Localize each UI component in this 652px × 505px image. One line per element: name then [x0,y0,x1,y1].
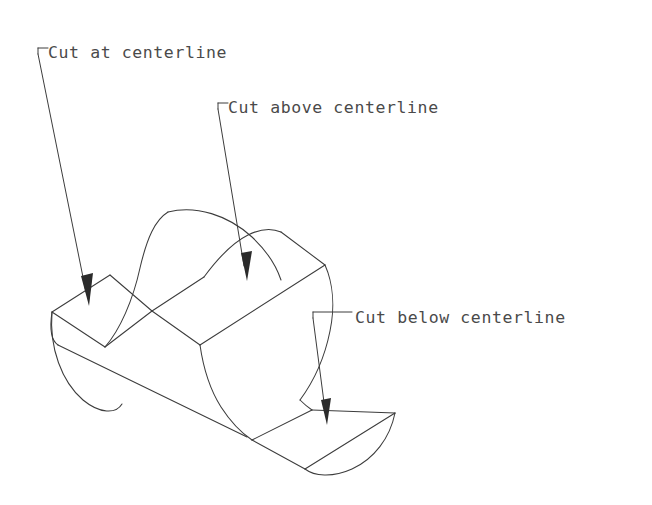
left-end-arc-close [110,275,122,404]
middle-flat-back-edge [281,232,325,265]
cylinder-front-bottom-element [58,345,247,437]
right-flat-junction-arc [300,400,312,410]
middle-front-drop-arc [200,345,252,440]
middle-flat-right-edge [200,265,325,345]
right-flat-left-edge [252,410,312,440]
arrowhead-2 [241,251,252,281]
cylinder-upper-silhouette-arc [168,210,281,280]
drawing-canvas: Cut at centerline Cut above centerline C… [0,0,652,505]
left-flat-top-front-edge [52,312,105,347]
arrowhead-1 [81,273,93,306]
leader-stem-2 [218,109,244,266]
middle-flat-left-front-edge [152,277,204,311]
middle-flat-front-edge [152,311,200,345]
leader-line-1 [38,48,48,54]
leader-line-2 [218,103,228,109]
leader-cut-below-centerline [313,312,352,425]
left-flat-top-right-edge [105,311,152,347]
label-cut-below-centerline: Cut below centerline [355,308,566,327]
middle-right-boundary-arc [300,265,333,400]
arrowhead-3 [321,398,331,425]
right-flat-front-edge [252,440,305,469]
leader-stem-1 [38,54,86,292]
left-end-flat-edge [52,275,110,312]
right-flat-right-edge [305,413,395,469]
label-cut-above-centerline: Cut above centerline [228,98,439,117]
left-end-semicircle [52,312,122,411]
part-body [51,210,395,475]
label-cut-at-centerline: Cut at centerline [48,43,227,62]
isometric-part-drawing: Cut at centerline Cut above centerline C… [0,0,652,505]
leader-stem-3 [313,318,325,410]
right-end-arc [305,413,395,475]
leader-cut-at-centerline [38,48,93,306]
left-flat-top-back-edge [110,275,152,311]
